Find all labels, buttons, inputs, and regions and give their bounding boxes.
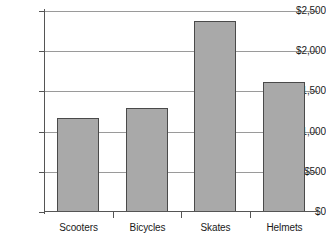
bar-bicycles (126, 108, 168, 212)
x-axis-tick (113, 212, 114, 218)
x-axis-category-label: Helmets (250, 222, 319, 233)
bars-layer (44, 11, 318, 212)
x-axis-category-label: Scooters (44, 222, 113, 233)
bar-scooters (57, 118, 99, 212)
x-axis-tick (250, 212, 251, 218)
bar-chart: $0$500$1,000$1,500$2,000$2,500 ScootersB… (0, 0, 326, 241)
x-axis-tick (181, 212, 182, 218)
bar-helmets (263, 82, 305, 212)
bar-skates (194, 21, 236, 212)
x-axis-category-label: Bicycles (113, 222, 182, 233)
x-axis-category-label: Skates (181, 222, 250, 233)
